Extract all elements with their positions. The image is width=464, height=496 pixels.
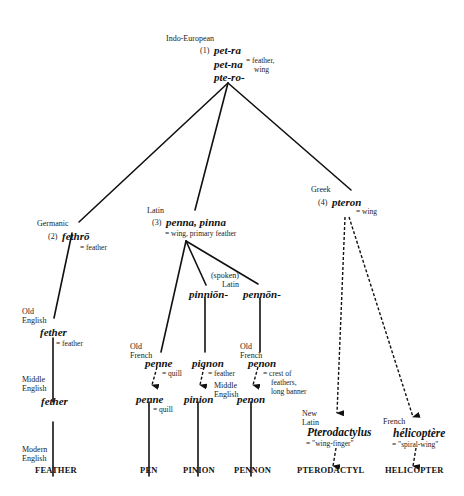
arrow-penne-penne: [152, 367, 157, 385]
pinion-me-line2: English: [214, 390, 238, 399]
latin-number: (3): [152, 219, 161, 227]
pennon-of-line1: Old: [240, 342, 262, 351]
root-form-1: pet-ra: [214, 45, 241, 56]
word-feather: FEATHER: [35, 466, 77, 475]
root-gloss-1: = feather,: [246, 57, 275, 65]
helicoptere-form: hélicoptère: [393, 428, 445, 440]
pennon-of-gloss-1: = crest of: [263, 370, 291, 378]
arrow-pignon-pinion: [200, 367, 204, 385]
modern-english-language-label: Modern English: [22, 445, 47, 463]
me-line2: English: [22, 384, 46, 393]
line-root-latin: [195, 83, 228, 210]
pennon-of-form: penon: [248, 358, 276, 369]
me-language-label: Middle English: [22, 375, 46, 393]
me-line1: Middle: [22, 375, 46, 384]
arrow-pteron-helicoptere: [349, 217, 413, 417]
oe-line2: English: [22, 316, 46, 325]
pterodactylus-gloss: = "wing-finger": [306, 440, 354, 448]
arrow-pterodactylus-modern: [333, 448, 336, 466]
greek-gloss: = wing: [356, 208, 377, 216]
nl-line1: New: [302, 409, 319, 418]
pinion-me-form: pinion: [184, 394, 213, 405]
pen-me-gloss: = quill: [153, 406, 173, 414]
root-language-label: Indo-European: [166, 35, 214, 43]
french-language-label: French: [383, 418, 405, 426]
line-germanic-oe: [54, 233, 72, 318]
pennon-vl-form: pennōn-: [243, 289, 281, 300]
pen-of-line1: Old: [130, 342, 152, 351]
spoken-line1: (spoken): [209, 271, 239, 280]
line-latin-pen: [161, 241, 186, 352]
germanic-form: fethrō: [62, 231, 90, 242]
word-helicopter: HELICOPTER: [385, 466, 444, 475]
germanic-gloss: = feather: [80, 244, 107, 252]
germanic-language-label: Germanic: [37, 220, 69, 228]
pen-of-gloss: = quill: [162, 370, 182, 378]
arrow-pteron-pterodactylus: [337, 217, 345, 413]
pennon-of-gloss-3: long banner: [271, 388, 307, 396]
word-pennon: PENNON: [234, 466, 271, 475]
line-root-greek: [228, 83, 351, 190]
word-pen: PEN: [140, 466, 158, 475]
pen-me-form: penne: [136, 394, 164, 405]
new-latin-language-label: New Latin: [302, 409, 319, 427]
pinion-of-gloss: = feather: [208, 370, 235, 378]
word-pterodactyl: PTERODACTYL: [297, 466, 364, 475]
pterodactylus-form: Pterodactylus: [307, 427, 372, 439]
oe-line1: Old: [22, 307, 46, 316]
root-number: (1): [200, 47, 209, 55]
oe-gloss: = feather: [56, 340, 83, 348]
greek-language-label: Greek: [311, 186, 331, 194]
pinnion-form: pinniōn-: [189, 289, 228, 300]
modern-line2: English: [22, 454, 47, 463]
oe-language-label: Old English: [22, 307, 46, 325]
pennon-of-gloss-2: feathers,: [271, 379, 297, 387]
pinion-of-form: pignon: [192, 358, 224, 369]
pinion-me-line1: Middle: [214, 381, 238, 390]
pen-of-form: penne: [145, 358, 173, 369]
modern-line1: Modern: [22, 445, 47, 454]
greek-number: (4): [318, 199, 327, 207]
line-root-germanic: [79, 83, 228, 222]
me-form: fether: [41, 396, 68, 407]
root-form-3: pte-ro-: [214, 72, 245, 83]
arrow-helicoptere-modern: [413, 448, 416, 466]
latin-form: penna, pinna: [166, 217, 226, 228]
root-gloss-2: wing: [254, 66, 269, 74]
oe-form: fether: [40, 327, 67, 338]
latin-gloss: = wing, primary feather: [165, 230, 236, 238]
spoken-latin-label: (spoken) Latin: [209, 271, 239, 289]
root-form-2: pet-na: [214, 59, 243, 70]
helicoptere-gloss: = "spiral-wing": [392, 441, 438, 449]
pinion-me-language-label: Middle English: [214, 381, 238, 399]
germanic-number: (2): [48, 233, 57, 241]
word-pinion: PINION: [183, 466, 215, 475]
pennon-me-form: penon: [237, 394, 265, 405]
latin-language-label: Latin: [147, 207, 164, 215]
arrow-penon-penon: [253, 367, 258, 385]
